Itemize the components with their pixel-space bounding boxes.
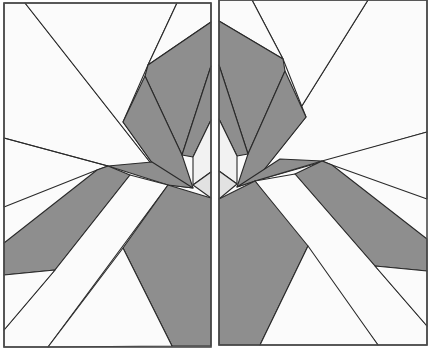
quilt-pattern-figure: [0, 0, 435, 353]
right-panel: [219, 0, 427, 345]
left-panel: [4, 3, 211, 347]
